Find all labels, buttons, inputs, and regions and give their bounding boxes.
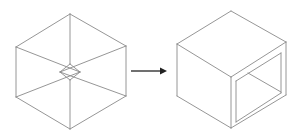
diagram-canvas xyxy=(0,0,298,137)
cube-edge xyxy=(16,14,70,47)
cube-center-edge xyxy=(70,64,80,72)
transform-arrow xyxy=(131,68,167,75)
cube-edge xyxy=(70,96,126,129)
cube-edge xyxy=(70,14,126,46)
wireframe-cube xyxy=(16,14,126,129)
box-edge xyxy=(177,11,231,44)
box-edge xyxy=(177,44,231,77)
box-edge xyxy=(177,96,231,128)
cube-edge xyxy=(16,97,70,129)
opening-depth-edge xyxy=(248,73,281,92)
opening-edge xyxy=(236,53,281,81)
hollow-box xyxy=(177,11,286,128)
opening-edge xyxy=(236,93,281,122)
box-edge xyxy=(231,11,286,42)
arrow-head-icon xyxy=(160,68,167,75)
box-edge xyxy=(231,42,286,77)
box-edge xyxy=(231,95,286,128)
diagram-svg xyxy=(0,0,298,137)
